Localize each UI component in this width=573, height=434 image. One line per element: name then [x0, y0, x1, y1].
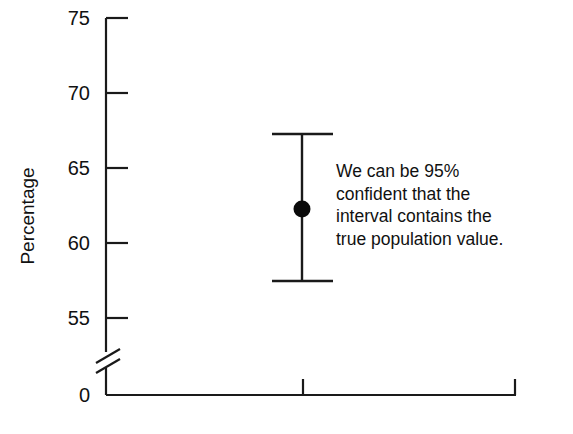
annotation-line-4: true population value. [336, 228, 551, 251]
confidence-interval-chart: Percentage 75 70 65 60 55 0 [0, 0, 573, 434]
point-estimate-marker [294, 201, 311, 218]
annotation-line-2: confident that the [336, 183, 551, 206]
ci-explanation-annotation: We can be 95% confident that the interva… [336, 160, 551, 250]
annotation-line-3: interval contains the [336, 205, 551, 228]
annotation-line-1: We can be 95% [336, 160, 551, 183]
